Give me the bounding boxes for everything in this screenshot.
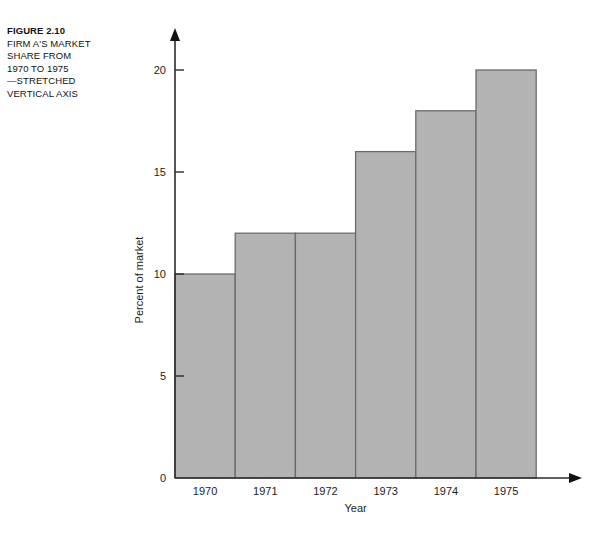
bar-1970 [175, 274, 235, 478]
x-axis-tick-labels: 197019711972197319741975 [193, 485, 518, 497]
x-tick-label-1974: 1974 [434, 485, 458, 497]
y-tick-label-20: 20 [154, 64, 166, 76]
bars-group [175, 70, 536, 478]
bar-1973 [356, 152, 416, 478]
bar-1972 [295, 233, 355, 478]
bar-1971 [235, 233, 295, 478]
y-tick-label-5: 5 [160, 370, 166, 382]
bar-1975 [476, 70, 536, 478]
x-tick-label-1970: 1970 [193, 485, 217, 497]
y-axis-title: Percent of market [133, 237, 145, 324]
x-tick-label-1971: 1971 [253, 485, 277, 497]
y-tick-label-0: 0 [160, 472, 166, 484]
bar-1974 [416, 111, 476, 478]
x-axis-arrow-icon [569, 473, 582, 483]
x-tick-label-1973: 1973 [373, 485, 397, 497]
y-axis-arrow-icon [170, 28, 180, 41]
y-tick-label-10: 10 [154, 268, 166, 280]
x-tick-label-1975: 1975 [494, 485, 518, 497]
bar-chart: 05101520 197019711972197319741975 Year P… [0, 0, 609, 536]
x-axis-title: Year [344, 502, 367, 514]
y-tick-label-15: 15 [154, 166, 166, 178]
x-tick-label-1972: 1972 [313, 485, 337, 497]
